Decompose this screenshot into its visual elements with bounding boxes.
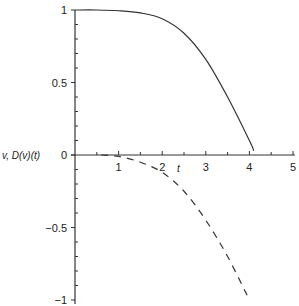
series-line-derivative — [101, 155, 249, 300]
chart: 10.50−0.5−112345 v, D(v)(t) t — [0, 0, 299, 306]
series-line-v — [75, 10, 254, 151]
y-tick-label: −0.5 — [45, 222, 67, 234]
x-tick-label: 2 — [159, 161, 165, 173]
x-tick-label: 5 — [290, 161, 296, 173]
x-tick-label: 1 — [116, 161, 122, 173]
y-tick-label: 0 — [61, 149, 67, 161]
axes: 10.50−0.5−112345 — [45, 4, 296, 306]
y-tick-label: 1 — [61, 4, 67, 16]
y-axis-label: v, D(v)(t) — [2, 150, 40, 161]
x-tick-label: 3 — [203, 161, 209, 173]
y-tick-label: 0.5 — [52, 77, 67, 89]
y-tick-label: −1 — [54, 294, 67, 306]
x-tick-label: 4 — [246, 161, 252, 173]
x-axis-label: t — [177, 163, 181, 174]
